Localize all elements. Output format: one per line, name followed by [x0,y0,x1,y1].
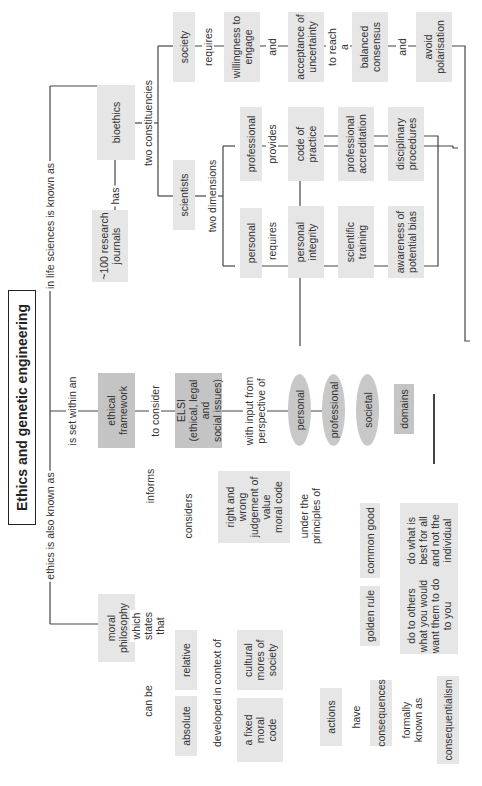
node-sci-personal: personal [240,208,262,278]
node-professional-accreditation: professional accreditation [338,107,374,181]
node-consequences: consequences [370,680,392,746]
diagram-title: Ethics and genetic engineering [8,290,36,525]
label-and-2: and [396,36,408,58]
node-societal-domain: societal [356,374,379,446]
node-actions: actions [320,688,342,746]
node-right-and-wrong: right and wrong judgement of value moral… [218,471,290,543]
node-elsi: ELSI (ethical, legal and social issues) [175,373,222,448]
node-code-of-practice: code of practice [288,107,324,181]
concept-map: Ethics and genetic engineering bioethics… [0,0,482,786]
label-considers: considers [182,492,194,541]
node-professional-domain: professional [322,374,345,446]
node-absolute: absolute [175,696,197,756]
node-research-journals: ~100 research journals [92,210,128,282]
node-willingness: willingness to engage [224,12,260,82]
label-can-be: can be [142,683,154,719]
label-also-known-as: ethics is also known as [44,470,56,581]
node-avoid-polarisation: avoid polarisation [416,12,452,82]
node-fixed-moral-code: a fixed moral code [237,698,283,762]
label-provides: provides [266,122,278,166]
node-consequentialism: consequentialism [437,676,459,764]
label-to-consider: to consider [149,383,161,438]
label-formally-known: formally known as [400,696,424,744]
divider-line [433,394,435,464]
node-disciplinary-procedures: disciplinary procedures [388,107,424,181]
label-under-principles: under the principles of [298,486,322,546]
node-sci-professional: professional [240,107,262,181]
label-developed-in: developed in context of [211,637,223,749]
node-ethical-framework: ethical framework [98,373,135,448]
node-society: society [173,12,195,82]
node-scientific-training: scientific training [338,206,374,278]
label-with-input: with input from perspective of [243,375,267,447]
label-requires-society: requires [202,26,214,68]
label-requires-personal: requires [266,220,278,262]
node-relative: relative [175,630,197,690]
label-to-reach: to reach a [326,24,350,71]
node-golden-rule: golden rule [360,586,380,646]
node-golden-rule-desc: do to others what you would want them to… [400,578,458,654]
label-informs: informs [144,467,156,505]
label-is-set-within: is set within an [66,375,78,448]
label-two-constituencies: two constituencies [142,78,154,168]
label-and-1: and [266,36,278,58]
label-in-life-sciences: in life sciences is known as [44,161,56,291]
node-bioethics: bioethics [97,85,135,160]
label-which-states: which states that [130,610,166,642]
node-domains: domains [394,384,414,434]
node-common-good-desc: do what is best for all and not the indi… [400,503,458,578]
label-two-dimensions: two dimensions [206,158,218,234]
node-personal-domain: personal [288,374,311,446]
node-balanced-consensus: balanced consensus [352,12,388,82]
node-scientists: scientists [173,160,195,230]
label-has: has [109,186,121,207]
node-common-good: common good [360,503,380,578]
node-acceptance: acceptance of uncertainty [288,12,324,82]
label-have: have [350,704,362,731]
node-awareness-bias: awareness of potential bias [388,206,424,278]
node-cultural-mores: cultural mores of society [237,630,283,690]
node-personal-integrity: personal integrity [288,206,324,278]
